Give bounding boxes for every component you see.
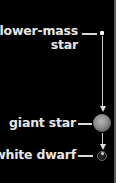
leader-white-dwarf: [78, 155, 93, 157]
arrow-down-icon: [100, 106, 106, 112]
label-white-dwarf: white dwarf: [0, 148, 76, 162]
evolution-track-upper: [102, 36, 104, 108]
label-giant-star: giant star: [9, 116, 76, 130]
frame-edge: [114, 0, 116, 183]
white-dwarf-core-icon: [101, 152, 104, 155]
leader-lower-mass-star: [82, 33, 97, 35]
label-lower-mass-star: lower-mass star: [0, 24, 78, 52]
white-dwarf-text: white dwarf: [0, 147, 76, 162]
lower-mass-star-icon: [100, 31, 104, 35]
giant-star-icon: [93, 114, 111, 132]
label-lower-mass-line2: star: [0, 38, 78, 52]
arrow-down-icon-2: [100, 144, 106, 150]
leader-giant-star: [78, 123, 92, 125]
label-lower-mass-line1: lower-mass: [0, 24, 78, 38]
giant-star-text: giant star: [9, 115, 76, 130]
